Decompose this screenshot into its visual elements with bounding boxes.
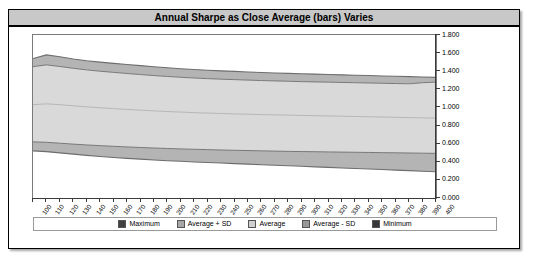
- y-tick: [436, 125, 440, 126]
- x-tick: [247, 198, 248, 202]
- y-tick-label: 1.800: [442, 31, 460, 38]
- x-tick: [381, 198, 382, 202]
- x-tick-label: 350: [376, 203, 388, 216]
- page-title: Annual Sharpe as Close Average (bars) Va…: [9, 10, 519, 25]
- x-tick: [140, 198, 141, 202]
- legend-item-maximum[interactable]: Maximum: [118, 220, 159, 228]
- x-tick: [72, 198, 73, 202]
- x-tick: [45, 198, 46, 202]
- y-tick: [436, 52, 440, 53]
- y-tick-label: 0.800: [442, 121, 460, 128]
- area-chart-svg: [33, 35, 436, 198]
- legend-swatch-icon: [177, 220, 185, 228]
- x-tick: [274, 198, 275, 202]
- y-axis: [435, 34, 436, 198]
- y-tick-label: 1.200: [442, 85, 460, 92]
- legend-item-average[interactable]: Average: [248, 220, 285, 228]
- x-tick: [354, 198, 355, 202]
- x-tick-label: 130: [81, 203, 93, 216]
- x-tick-label: 330: [350, 203, 362, 216]
- y-tick: [436, 34, 440, 35]
- x-tick: [422, 198, 423, 202]
- x-tick-label: 230: [215, 203, 227, 216]
- x-tick-label: 320: [336, 203, 348, 216]
- x-tick: [368, 198, 369, 202]
- plot-area: [32, 34, 437, 199]
- legend-swatch-icon: [302, 220, 310, 228]
- x-tick-label: 390: [430, 203, 442, 216]
- x-tick-label: 400: [444, 203, 456, 216]
- x-tick-label: 220: [202, 203, 214, 216]
- y-tick-label: 1.400: [442, 67, 460, 74]
- x-tick-label: 340: [363, 203, 375, 216]
- y-tick: [436, 161, 440, 162]
- legend-label: Average + SD: [188, 220, 232, 228]
- x-tick: [166, 198, 167, 202]
- x-tick: [32, 198, 33, 202]
- y-tick-label: 0.200: [442, 175, 460, 182]
- legend-label: Minimum: [383, 220, 411, 228]
- y-tick: [436, 179, 440, 180]
- x-tick-label: 140: [94, 203, 106, 216]
- chart-legend: MaximumAverage + SDAverageAverage - SDMi…: [33, 217, 497, 231]
- x-tick: [126, 198, 127, 202]
- legend-swatch-icon: [118, 220, 126, 228]
- y-tick-label: 1.600: [442, 49, 460, 56]
- x-tick-label: 200: [175, 203, 187, 216]
- x-tick: [180, 198, 181, 202]
- x-tick-label: 180: [148, 203, 160, 216]
- legend-label: Average: [259, 220, 285, 228]
- y-tick-label: 1.000: [442, 103, 460, 110]
- x-tick-label: 280: [282, 203, 294, 216]
- legend-swatch-icon: [248, 220, 256, 228]
- x-tick: [193, 198, 194, 202]
- x-tick-label: 300: [309, 203, 321, 216]
- y-tick: [436, 70, 440, 71]
- chart-title-bar: Annual Sharpe as Close Average (bars) Va…: [9, 10, 519, 27]
- y-tick-label: 0.600: [442, 139, 460, 146]
- x-tick-label: 190: [162, 203, 174, 216]
- x-tick: [408, 198, 409, 202]
- legend-label: Maximum: [129, 220, 159, 228]
- x-tick: [59, 198, 60, 202]
- y-tick: [436, 197, 440, 198]
- x-tick: [113, 198, 114, 202]
- y-tick-label: 0.000: [442, 194, 460, 201]
- legend-swatch-icon: [372, 220, 380, 228]
- y-tick-label: 0.400: [442, 157, 460, 164]
- x-tick-label: 250: [242, 203, 254, 216]
- x-tick-label: 110: [54, 203, 66, 216]
- x-tick-label: 120: [68, 203, 80, 216]
- x-tick-label: 150: [108, 203, 120, 216]
- y-tick: [436, 143, 440, 144]
- x-tick: [220, 198, 221, 202]
- x-tick-label: 160: [121, 203, 133, 216]
- x-tick-label: 360: [390, 203, 402, 216]
- x-tick: [153, 198, 154, 202]
- x-tick: [234, 198, 235, 202]
- x-tick-label: 310: [323, 203, 335, 216]
- legend-item-minimum[interactable]: Minimum: [372, 220, 411, 228]
- x-tick: [328, 198, 329, 202]
- x-tick-label: 210: [188, 203, 200, 216]
- x-tick: [287, 198, 288, 202]
- x-tick-label: 270: [269, 203, 281, 216]
- legend-label: Average - SD: [313, 220, 355, 228]
- y-tick: [436, 88, 440, 89]
- x-tick: [435, 198, 436, 202]
- legend-item-average-sd[interactable]: Average - SD: [302, 220, 355, 228]
- x-tick-label: 370: [403, 203, 415, 216]
- x-tick-label: 260: [256, 203, 268, 216]
- x-tick: [207, 198, 208, 202]
- x-tick-label: 380: [417, 203, 429, 216]
- x-tick: [99, 198, 100, 202]
- plot-wrapper: 0.0000.2000.4000.6000.8001.0001.2001.400…: [32, 34, 458, 204]
- x-tick: [341, 198, 342, 202]
- chart-frame: Annual Sharpe as Close Average (bars) Va…: [8, 9, 520, 249]
- x-tick-label: 240: [229, 203, 241, 216]
- x-tick: [314, 198, 315, 202]
- x-tick-label: 290: [296, 203, 308, 216]
- x-tick-label: 100: [41, 203, 53, 216]
- x-tick: [86, 198, 87, 202]
- legend-item-average-sd[interactable]: Average + SD: [177, 220, 232, 228]
